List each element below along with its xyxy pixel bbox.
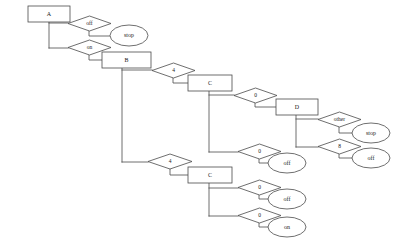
process-box-c-upper-label: C (208, 80, 212, 86)
decision-off-1[interactable]: off (68, 16, 111, 31)
decision-zero-upper-label: 0 (254, 92, 257, 98)
decision-zero-lower-2-label: 0 (258, 212, 261, 218)
decision-other[interactable]: other (318, 112, 361, 127)
terminal-off-1[interactable]: off (352, 148, 390, 168)
decision-8[interactable]: 8 (318, 139, 361, 154)
edge-zerolow2-to-on1 (259, 223, 268, 227)
decision-4-lower-label: 4 (169, 158, 172, 164)
process-box-a-label: A (47, 11, 52, 17)
decision-zero-lower-1-label: 0 (258, 184, 261, 190)
decision-off-1-label: off (86, 20, 92, 26)
decision-4-lower[interactable]: 4 (148, 154, 192, 169)
process-box-d-label: D (295, 104, 300, 110)
process-box-b[interactable]: B (102, 52, 151, 68)
terminal-stop-1-label: stop (124, 32, 134, 38)
edge-off1-to-stop1 (89, 31, 110, 36)
terminal-on-1-label: on (284, 224, 290, 230)
terminal-stop-1[interactable]: stop (110, 25, 148, 46)
process-box-c-upper[interactable]: C (188, 75, 232, 91)
decision-8-label: 8 (338, 143, 341, 149)
terminal-off-1-label: off (368, 155, 375, 161)
process-box-c-lower[interactable]: C (188, 167, 232, 183)
terminal-stop-2[interactable]: stop (352, 123, 390, 143)
edge-zero-mid-to-off2 (259, 159, 268, 163)
edge-decision4-to-c (173, 78, 188, 83)
decision-4-upper-label: 4 (172, 67, 175, 73)
process-box-d[interactable]: D (276, 99, 318, 115)
decision-zero-mid-label: 0 (258, 148, 261, 154)
flowchart-diagram: AoffstoponB4C0Dotherstop8off0off4C0off0o… (0, 0, 407, 248)
decision-on-1-label: on (87, 44, 93, 50)
terminal-off-3[interactable]: off (268, 189, 306, 209)
terminal-stop-2-label: stop (366, 130, 376, 136)
process-box-b-label: B (124, 57, 128, 63)
edge-zerolow1-to-off3 (259, 195, 268, 199)
edge-zero-upper-to-d (255, 103, 276, 107)
decision-zero-upper[interactable]: 0 (234, 88, 277, 103)
edge-decision8-to-off1 (339, 154, 352, 158)
decision-other-label: other (334, 116, 345, 122)
edge-on1-to-b (89, 55, 102, 60)
diagram-canvas: AoffstoponB4C0Dotherstop8off0off4C0off0o… (0, 0, 407, 248)
process-box-c-lower-label: C (208, 172, 212, 178)
terminal-off-2-label: off (284, 160, 291, 166)
terminal-on-1[interactable]: on (268, 217, 306, 237)
process-box-a[interactable]: A (28, 6, 70, 22)
edge-decision4l-to-c (170, 169, 188, 175)
terminal-off-3-label: off (284, 196, 291, 202)
terminal-off-2[interactable]: off (268, 153, 306, 173)
edge-other-to-stop2 (339, 127, 352, 133)
